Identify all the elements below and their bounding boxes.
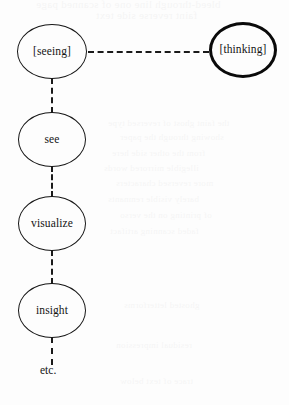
- ghost-text-line: the faint ghost of reversed type: [108, 118, 229, 128]
- node-see-label: see: [45, 134, 60, 146]
- ghost-text-line: illegible mirrored words: [104, 163, 199, 173]
- ghost-text-line: residual impression: [116, 340, 192, 350]
- diagram-canvas: bleed-through line one of scanned page f…: [0, 0, 289, 405]
- connector-see-to-visualize: [51, 166, 53, 197]
- ghost-text-line: faded scanning artifact: [110, 226, 199, 236]
- node-seeing[interactable]: [seeing]: [17, 24, 87, 79]
- ghost-text-line: faint reverse side text: [96, 9, 197, 21]
- ghost-text-line: showing through the paper: [120, 132, 224, 142]
- connector-visualize-to-insight: [51, 250, 53, 284]
- node-thinking-label: [thinking]: [220, 44, 267, 56]
- ghost-text-line: of printing on the verso: [120, 210, 212, 220]
- terminal-label-etc: etc.: [40, 364, 56, 376]
- node-thinking[interactable]: [thinking]: [209, 22, 277, 78]
- node-insight[interactable]: insight: [18, 283, 86, 338]
- ghost-text-line: more reversed characters: [116, 178, 213, 188]
- connector-seeing-to-see: [51, 78, 53, 113]
- ghost-text-line: barely visible remnants: [108, 194, 199, 204]
- node-see[interactable]: see: [18, 112, 86, 167]
- ghost-text-line: from the other side here: [112, 148, 205, 158]
- connector-insight-to-etc: [51, 337, 53, 365]
- ghost-text-line: bleed-through line one of scanned page: [36, 0, 221, 10]
- node-visualize[interactable]: visualize: [18, 196, 86, 251]
- connector-seeing-to-thinking: [88, 51, 209, 53]
- ghost-text-line: trace of text below: [120, 376, 193, 386]
- node-seeing-label: [seeing]: [33, 46, 71, 58]
- ghost-text-line: ghosted letterforms: [124, 300, 199, 310]
- node-insight-label: insight: [36, 305, 68, 317]
- node-visualize-label: visualize: [31, 218, 73, 230]
